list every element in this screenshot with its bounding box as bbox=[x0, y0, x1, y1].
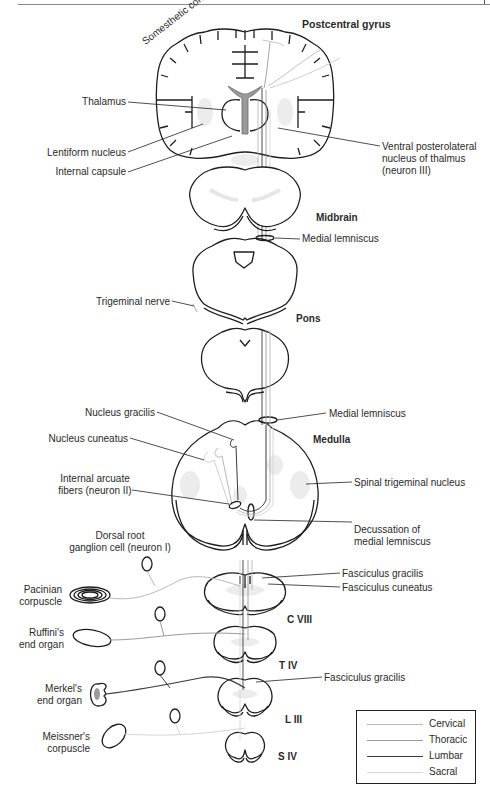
label-pons: Pons bbox=[296, 313, 320, 325]
label-pacinian-line2: corpuscle bbox=[10, 596, 62, 608]
label-vpl-line3: (neuron III) bbox=[382, 165, 431, 177]
label-lentiform-nucleus: Lentiform nucleus bbox=[20, 147, 126, 159]
label-fasciculus-gracilis-c8: Fasciculus gracilis bbox=[342, 568, 423, 580]
midbrain-section bbox=[190, 167, 301, 231]
label-meissner-line1: Meissner's bbox=[10, 731, 90, 743]
label-nucleus-cuneatus: Nucleus cuneatus bbox=[20, 433, 128, 445]
legend-swatch-thoracic bbox=[367, 740, 423, 741]
label-drg-line2: ganglion cell (neuron I) bbox=[60, 542, 180, 554]
upper-medulla-section bbox=[202, 328, 289, 402]
cerebrum-section bbox=[156, 29, 333, 166]
label-trigeminal-nerve: Trigeminal nerve bbox=[40, 296, 170, 308]
label-merkel-line2: end organ bbox=[10, 695, 82, 707]
label-internal-capsule: Internal capsule bbox=[20, 166, 126, 178]
legend-item-thoracic: Thoracic bbox=[357, 733, 477, 749]
label-postcentral-gyrus: Postcentral gyrus bbox=[302, 18, 391, 30]
label-merkel-line1: Merkel's bbox=[10, 683, 82, 695]
label-decussation-line2: medial lemniscus bbox=[354, 536, 431, 548]
label-fasciculus-gracilis-l3: Fasciculus gracilis bbox=[324, 672, 405, 684]
label-c8: C VIII bbox=[287, 614, 312, 626]
legend-label-sacral: Sacral bbox=[429, 766, 457, 777]
legend-swatch-sacral bbox=[367, 772, 423, 773]
label-l3: L III bbox=[285, 714, 302, 726]
label-thalamus: Thalamus bbox=[40, 96, 126, 108]
label-ruffini-line1: Ruffini's bbox=[10, 627, 64, 639]
legend-box: Cervical Thoracic Lumbar Sacral bbox=[356, 710, 476, 784]
label-midbrain: Midbrain bbox=[316, 212, 358, 224]
label-drg-line1: Dorsal root bbox=[60, 530, 180, 542]
label-fasciculus-cuneatus: Fasciculus cuneatus bbox=[342, 582, 433, 594]
label-vpl-line1: Ventral posterolateral bbox=[382, 141, 477, 153]
legend-swatch-lumbar bbox=[367, 756, 423, 757]
legend-swatch-cervical bbox=[367, 724, 423, 725]
label-medial-lemniscus-upper: Medial lemniscus bbox=[302, 233, 379, 245]
label-internal-arcuate-line1: Internal arcuate bbox=[50, 473, 140, 485]
legend-item-lumbar: Lumbar bbox=[357, 749, 477, 765]
label-pacinian-line1: Pacinian bbox=[10, 584, 62, 596]
legend-item-sacral: Sacral bbox=[357, 765, 477, 781]
spinal-cord-l3 bbox=[218, 678, 272, 716]
label-meissner-line2: corpuscle bbox=[10, 743, 90, 755]
spinal-cord-t4 bbox=[214, 626, 276, 662]
label-vpl-line2: nucleus of thalmus bbox=[382, 153, 465, 165]
label-ruffini-line2: end organ bbox=[10, 639, 64, 651]
label-t4: T IV bbox=[279, 660, 297, 672]
meissner-corpuscle bbox=[98, 709, 245, 752]
spinal-cord-s4 bbox=[225, 732, 264, 762]
label-s4: S IV bbox=[278, 751, 297, 763]
label-medulla: Medulla bbox=[313, 434, 350, 446]
label-decussation-line1: Decussation of bbox=[354, 524, 420, 536]
label-internal-arcuate-line2: fibers (neuron II) bbox=[50, 485, 140, 497]
legend-label-thoracic: Thoracic bbox=[429, 734, 467, 745]
label-nucleus-gracilis: Nucleus gracilis bbox=[40, 407, 155, 419]
legend-label-lumbar: Lumbar bbox=[429, 750, 463, 761]
legend-label-cervical: Cervical bbox=[429, 718, 465, 729]
label-spinal-trigeminal-nucleus: Spinal trigeminal nucleus bbox=[354, 477, 465, 489]
legend-item-cervical: Cervical bbox=[357, 717, 477, 733]
pons-section bbox=[193, 236, 297, 325]
label-medial-lemniscus-lower: Medial lemniscus bbox=[329, 408, 406, 420]
